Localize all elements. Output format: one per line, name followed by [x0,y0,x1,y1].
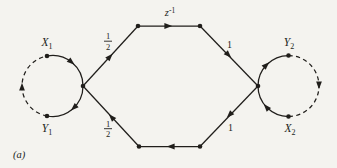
node-label-y1: Y1 [42,122,52,137]
node-y2 [286,53,291,58]
node-right-junction [256,84,261,89]
node-dots [45,24,291,149]
node-bottom-left [137,144,142,149]
delay-label: z-1 [164,6,176,19]
edge-y1-to-x1-dashed-arc [22,56,47,116]
signal-flow-graph-canvas: X1 Y1 Y2 X2 z-1 1 2 1 2 1 1 (a) [0,0,337,168]
gain-top-left-numerator: 1 [106,31,110,41]
signal-flow-graph-figure: X1 Y1 Y2 X2 z-1 1 2 1 2 1 1 (a) [0,0,337,168]
gain-label-bottom-right: 1 [228,122,233,133]
node-label-x2: X2 [283,122,295,137]
gain-top-left-denominator: 2 [106,42,110,52]
edge-y2-to-x2-dashed-arc [289,56,319,117]
figure-caption: (a) [13,149,26,161]
edge-right-junction-to-y2-arc [258,56,289,87]
node-top-left [136,24,141,29]
node-y1 [45,114,50,119]
gain-bottom-left-numerator: 1 [106,119,110,129]
edges [22,26,319,147]
edge-x1-to-left-junction-arc [47,56,83,86]
gain-label-top-right: 1 [227,39,232,50]
arrow-icon-delay-branch [164,23,172,29]
edge-left-junction-to-y1-arc [47,86,83,117]
arrow-icon-left-circle-dashed [19,83,25,91]
arrowheads [19,23,322,149]
gain-label-bottom-left: 1 2 [104,119,112,140]
node-x1 [45,54,50,59]
labels: X1 Y1 Y2 X2 z-1 1 2 1 2 1 1 (a) [13,6,296,162]
node-left-junction [81,84,86,89]
edge-x2-to-right-junction-arc [258,86,289,117]
node-label-y2: Y2 [284,36,294,51]
gain-bottom-left-denominator: 2 [106,129,110,139]
node-x2 [286,114,291,119]
node-label-x1: X1 [40,36,52,51]
gain-label-top-left: 1 2 [104,31,112,52]
node-bottom-right [198,144,203,149]
arrow-icon-right-circle-dashed [316,81,322,89]
node-top-right [198,24,203,29]
arrow-icon-bottom-branch [167,144,175,150]
